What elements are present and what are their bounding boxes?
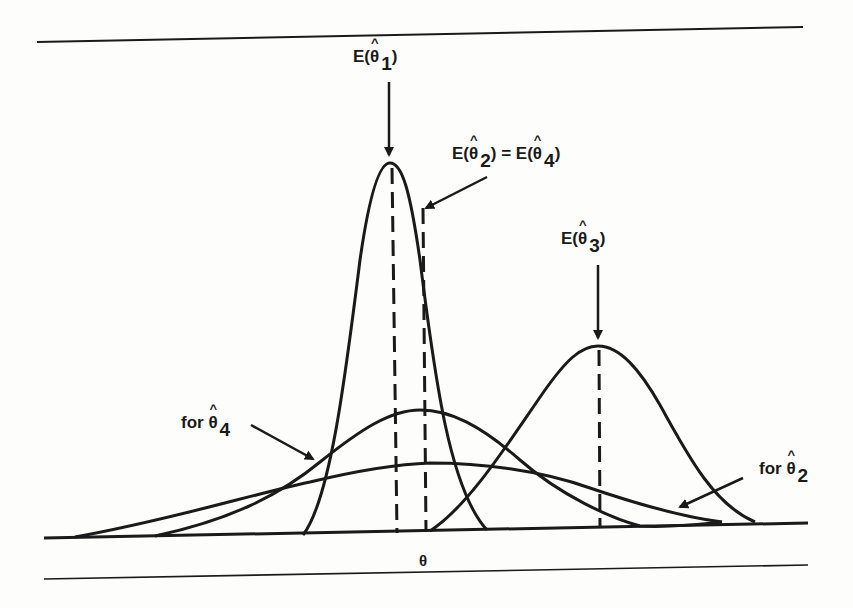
subscript: 4 (220, 419, 231, 440)
label-text: ) (600, 229, 606, 248)
mean-line-theta3 (599, 350, 600, 527)
theta-hat-symbol: ^θ (533, 145, 542, 162)
curve-theta4 (155, 410, 722, 536)
label-for-theta4: for ^θ4 (181, 412, 230, 431)
theta-hat-symbol: ^θ (578, 230, 587, 247)
label-e-theta2-equals-e-theta4: E(^θ2) = E(^θ4) (452, 143, 560, 162)
subscript: 3 (589, 235, 600, 256)
label-text: ) (491, 144, 497, 163)
label-text: ) (555, 144, 561, 163)
mean-line-theta1 (392, 168, 397, 533)
theta-hat-symbol: ^θ (370, 48, 379, 65)
subscript: 2 (798, 465, 809, 486)
mean-line-theta2-theta4 (423, 208, 426, 532)
axis-label-theta: θ (419, 553, 427, 568)
label-text: E( (516, 144, 533, 163)
subscript: 2 (480, 150, 491, 171)
subscript: 1 (381, 53, 392, 74)
hat-glyph: ^ (470, 133, 478, 146)
subscript: 4 (544, 150, 555, 171)
hat-glyph: ^ (579, 218, 587, 231)
equals-sign: = (501, 144, 511, 163)
theta-hat-symbol: ^θ (208, 414, 217, 431)
arrow-icon-for-theta4 (251, 425, 313, 459)
theta-hat-symbol: ^θ (786, 460, 795, 477)
sampling-distributions-diagram (0, 0, 853, 608)
label-text: E( (353, 47, 370, 66)
label-text: E( (561, 229, 578, 248)
label-for-theta2: for ^θ2 (759, 458, 808, 477)
label-e-theta3: E(^θ3) (561, 228, 605, 247)
label-text: ) (392, 47, 398, 66)
label-text: for (181, 413, 208, 432)
label-e-theta1: E(^θ1) (353, 46, 397, 65)
hat-glyph: ^ (209, 402, 217, 415)
arrow-icon-theta2-theta4 (426, 177, 487, 208)
label-text: E( (452, 144, 469, 163)
top-rule (37, 27, 803, 42)
label-text: for (759, 459, 786, 478)
curve-theta3 (430, 346, 755, 531)
arrow-icon-for-theta2 (680, 478, 743, 507)
hat-glyph: ^ (534, 133, 542, 146)
theta-hat-symbol: ^θ (469, 145, 478, 162)
hat-glyph: ^ (371, 36, 379, 49)
hat-glyph: ^ (787, 448, 795, 461)
